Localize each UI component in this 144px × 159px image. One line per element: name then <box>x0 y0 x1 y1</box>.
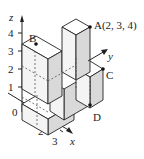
y-axis <box>88 51 105 61</box>
z-axis-label: z <box>8 11 14 23</box>
x-axis-arrow-icon <box>66 127 73 134</box>
z-tick-1: 1 <box>8 81 14 93</box>
origin-label: 0 <box>12 106 18 118</box>
point-c-label: C <box>106 69 113 81</box>
x-axis-label: x <box>69 135 75 147</box>
z-tick-2: 2 <box>8 63 14 75</box>
point-a-marker <box>88 25 92 29</box>
z-tick-4: 4 <box>8 27 14 39</box>
point-b-label: B <box>29 32 36 44</box>
point-a-label: A(2, 3, 4) <box>94 19 137 32</box>
y-axis-arrow-icon <box>101 49 108 55</box>
point-c-marker <box>101 67 105 71</box>
point-d-marker <box>88 103 92 107</box>
point-d-label: D <box>93 111 101 123</box>
z-tick-3: 3 <box>8 45 14 57</box>
x-tick-3: 3 <box>52 135 58 147</box>
y-axis-label: y <box>107 50 113 62</box>
cube-stack-diagram: z 4 3 2 1 x 1 2 3 0 <box>0 0 144 159</box>
